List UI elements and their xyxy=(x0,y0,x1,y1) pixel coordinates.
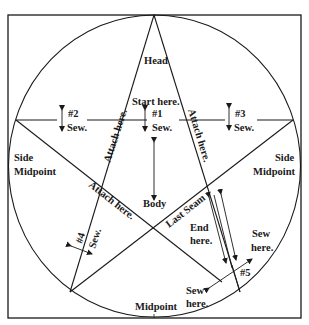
label-head: Head xyxy=(144,55,168,66)
label-side-right-1: Side xyxy=(275,152,295,163)
label-end-here-2: here. xyxy=(190,235,213,246)
label-midpoint: Midpoint xyxy=(135,301,178,312)
label-side-right-2: Midpoint xyxy=(253,166,296,177)
label-seam3-sew: Sew. xyxy=(234,122,255,133)
label-side-left-2: Midpoint xyxy=(14,166,57,177)
label-attach-left: Attach here. xyxy=(101,107,129,163)
label-seam5-num: #5 xyxy=(240,267,251,278)
label-attach-lower: Attach here. xyxy=(87,179,138,222)
label-sew-here-left-1: Sew xyxy=(186,285,205,296)
label-sew-here-right-1: Sew xyxy=(252,228,271,239)
label-attach-right: Attach here. xyxy=(186,107,213,163)
label-seam1-num: #1 xyxy=(152,108,163,119)
label-side-left-1: Side xyxy=(14,152,34,163)
label-body: Body xyxy=(143,198,167,209)
label-sew-here-left-2: here. xyxy=(186,298,209,309)
label-seam3-num: #3 xyxy=(235,108,246,119)
label-seam1-sew: Sew. xyxy=(152,122,173,133)
label-seam2-sew: Sew. xyxy=(67,122,88,133)
label-sew-here-right-2: here. xyxy=(251,242,274,253)
label-end-here-1: End xyxy=(190,222,209,233)
star-pattern-diagram: Head Start here. #1 Sew. #2 Sew. #3 Sew.… xyxy=(0,0,309,325)
label-seam2-num: #2 xyxy=(68,108,79,119)
label-start-here: Start here. xyxy=(132,96,180,107)
